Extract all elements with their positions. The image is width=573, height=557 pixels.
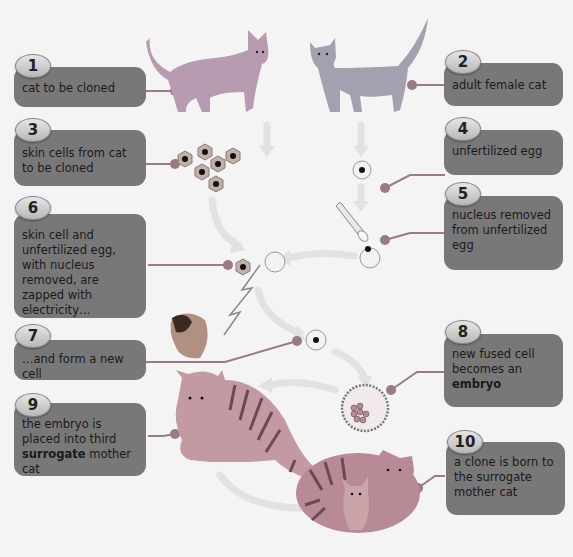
embryo-illustration <box>342 385 388 431</box>
unfertilized-egg-illustration <box>353 161 371 179</box>
enucleated-egg-illustration <box>360 246 380 268</box>
step-number-badge: 10 <box>447 430 483 454</box>
step-number-badge: 6 <box>15 196 51 220</box>
step-number-badge: 9 <box>15 393 51 417</box>
step-number-badge: 3 <box>15 118 51 142</box>
step-number-badge: 5 <box>445 182 481 206</box>
skin-cells-illustration <box>178 144 240 192</box>
step-label: new fused cell becomes an embryo <box>444 334 563 407</box>
step-number-badge: 7 <box>15 324 51 348</box>
adult-female-cat-illustration <box>310 18 428 112</box>
fused-cell-illustration <box>306 330 326 350</box>
surrogate-mother-cat-illustration <box>176 370 321 478</box>
step-keyword: surrogate <box>22 447 86 461</box>
step-number-badge: 2 <box>445 50 481 74</box>
empty-egg-before-fusion <box>265 252 285 272</box>
mother-and-cloned-kitten-illustration <box>296 450 420 533</box>
step-text: the embryo is placed into third <box>22 417 116 446</box>
tissue-sample-illustration <box>171 313 208 358</box>
step-number-badge: 4 <box>445 117 481 141</box>
cat-to-be-cloned-illustration <box>146 30 268 112</box>
step-label: skin cell and unfertilized egg, with nuc… <box>14 214 146 318</box>
step-text: new fused cell becomes an <box>452 347 535 376</box>
step-number-badge: 8 <box>445 320 481 344</box>
lightning-bolt-icon <box>224 265 260 335</box>
step-label: nucleus removed from unfertilized egg <box>444 196 563 270</box>
step-keyword: embryo <box>452 377 501 391</box>
step-number-badge: 1 <box>15 54 51 78</box>
skin-cell-before-fusion <box>236 259 250 275</box>
pipette-illustration <box>336 202 370 243</box>
